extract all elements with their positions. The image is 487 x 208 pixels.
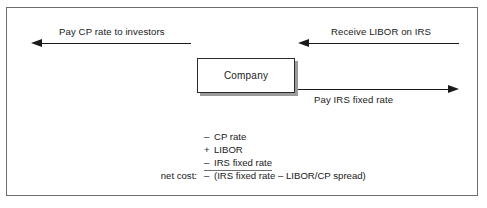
calc-tag-net-cost: net cost: (147, 169, 204, 182)
flow-label-receive-libor: Receive LIBOR on IRS (331, 26, 431, 37)
arrow-head-right-icon (448, 85, 459, 93)
company-box-label: Company (224, 70, 268, 81)
figure-frame: Pay CP rate to investors Receive LIBOR o… (6, 7, 478, 196)
flow-arrow-line-receive-libor (309, 43, 459, 44)
calc-sign: + (204, 143, 214, 156)
calc-term: (IRS fixed rate – LIBOR/CP spread) (214, 169, 366, 182)
flow-arrow-line-pay-irs-fixed (298, 89, 448, 90)
figure-canvas: Pay CP rate to investors Receive LIBOR o… (0, 0, 487, 208)
flow-label-pay-irs-fixed: Pay IRS fixed rate (314, 94, 393, 105)
flow-label-pay-cp-rate: Pay CP rate to investors (59, 26, 165, 37)
net-cost-calculation: – CP rate + LIBOR – IRS fixed rate net c… (147, 130, 366, 182)
calc-row: – IRS fixed rate (147, 156, 366, 169)
arrow-head-left-icon (298, 39, 309, 47)
calc-row: – CP rate (147, 130, 366, 143)
calc-sign: – (204, 169, 214, 182)
calc-term: CP rate (214, 130, 246, 143)
company-box: Company (197, 58, 295, 93)
flow-arrow-line-pay-cp-rate (42, 43, 191, 44)
calc-row-net-cost: net cost: – (IRS fixed rate – LIBOR/CP s… (147, 169, 366, 182)
calc-term: LIBOR (214, 143, 243, 156)
arrow-head-left-icon (31, 39, 42, 47)
calc-row: + LIBOR (147, 143, 366, 156)
calc-sign: – (204, 130, 214, 143)
